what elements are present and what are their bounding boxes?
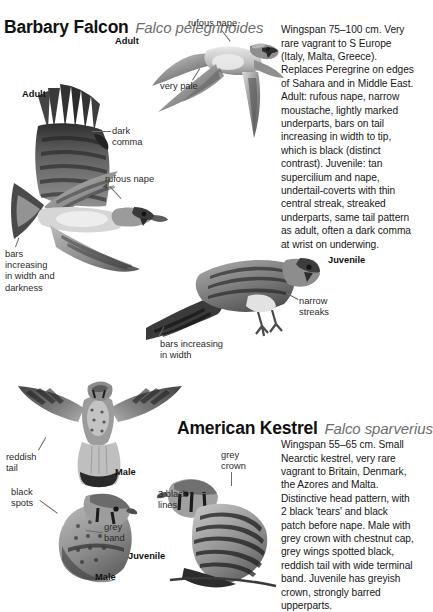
species-description-american-kestrel: Wingspan 55–65 cm. Small Nearctic kestre… [281,438,415,612]
leader-line-bars-width [158,326,165,337]
species-heading-american-kestrel: American Kestrel Falco sparverius [177,414,433,438]
label-three-black-lines: 3 black lines [158,489,187,511]
leader-line-bars-darkness [15,238,19,248]
leader-line-dark-comma [92,131,111,132]
leader-line-rufous-nape-lower [109,186,121,199]
leader-line-very-pale [192,68,200,80]
label-very-pale: very pale [160,81,198,92]
label-male-flight: Male [115,467,136,478]
leader-line-three-black-lines [196,493,210,494]
label-juvenile-barbary: Juvenile [328,255,365,266]
label-bars-increasing-darkness: bars increasing in width and darkness [5,249,55,294]
label-black-spots: black spots [11,487,33,509]
species-scientific-name: Falco sparverius [324,420,432,437]
label-adult-flight: Adult [115,36,139,47]
species-description-barbary-falcon: Wingspan 75–100 cm. Very rare vagrant to… [281,23,415,251]
leader-line-grey-crown [231,472,232,486]
label-reddish-tail: reddish tail [6,452,37,474]
label-rufous-nape-top: rufous nape [188,18,237,29]
label-narrow-streaks: narrow streaks [299,296,329,318]
label-dark-comma: dark comma [112,126,142,148]
leader-line-black-spots [39,500,57,514]
leader-line-reddish-tail [38,437,46,450]
label-adult-wing: Adult [22,89,46,100]
species-common-name: Barbary Falcon [4,17,129,37]
label-rufous-nape-lower: rufous nape [105,174,154,185]
illustration-kestrel-male-flight [12,368,187,488]
label-male-perched: Male [95,572,116,583]
label-juvenile-kestrel: Juvenile [128,551,165,562]
label-grey-crown: grey crown [221,450,246,472]
species-common-name: American Kestrel [177,418,318,438]
label-grey-band: grey band [104,522,125,544]
leader-line-grey-band [86,530,103,533]
leader-line-narrow-streaks [287,293,299,300]
label-bars-increasing-width: bars increasing in width [160,339,223,361]
